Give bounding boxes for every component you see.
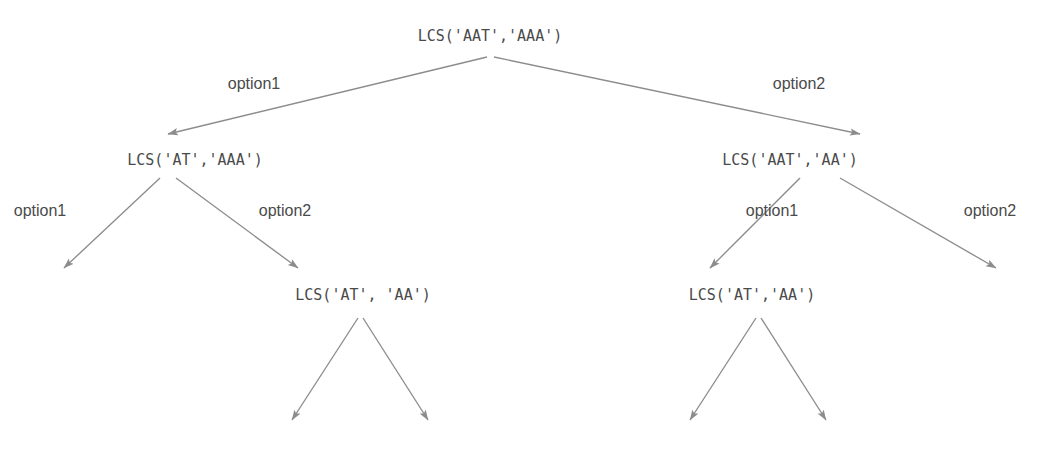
edge-layer: [0, 0, 1044, 449]
node-right-level1: LCS('AAT','AA'): [722, 151, 857, 169]
edge-l2-to-dangling-left: [292, 318, 358, 420]
node-left-level2: LCS('AT', 'AA'): [295, 286, 430, 304]
node-right-level2: LCS('AT','AA'): [689, 286, 815, 304]
edge-r1-to-dangling-right: [840, 178, 996, 268]
node-left-level1: LCS('AT','AAA'): [127, 151, 262, 169]
edge-root-to-l1: [168, 57, 487, 134]
edge-label-left-option2: option2: [259, 202, 312, 220]
edge-l1-to-dangling-left: [64, 178, 160, 268]
edge-r1-to-r2: [710, 178, 800, 268]
edge-l1-to-l2: [176, 178, 298, 268]
edge-root-to-r1: [494, 57, 860, 134]
edge-label-root-option1: option1: [228, 75, 281, 93]
edge-r2-to-dangling-right: [761, 318, 826, 420]
edge-r2-to-dangling-left: [690, 318, 756, 420]
edge-label-left-option1: option1: [14, 202, 67, 220]
recursion-tree-diagram: LCS('AAT','AAA') LCS('AT','AAA') LCS('AA…: [0, 0, 1044, 449]
edge-l2-to-dangling-right: [363, 318, 428, 420]
edge-label-right-option1: option1: [746, 202, 799, 220]
edge-label-right-option2: option2: [964, 202, 1017, 220]
node-root: LCS('AAT','AAA'): [418, 27, 563, 45]
edge-label-root-option2: option2: [773, 75, 826, 93]
